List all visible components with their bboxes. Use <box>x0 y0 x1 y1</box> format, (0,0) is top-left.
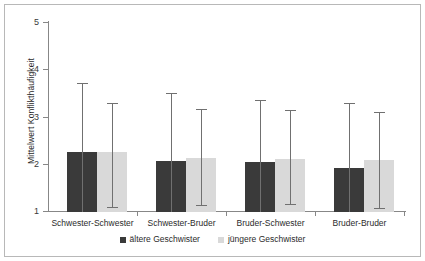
errorcap-younger-3-lower <box>374 208 385 209</box>
x-tick-2 <box>315 212 316 216</box>
errorcap-older-0-upper <box>77 83 88 84</box>
errorbar-younger-1 <box>201 109 202 205</box>
x-tick-1 <box>226 212 227 216</box>
legend-swatch-younger-icon <box>218 237 224 243</box>
errorcap-younger-2-upper <box>285 110 296 111</box>
legend-item-younger[interactable]: jüngere Geschwister <box>218 235 305 244</box>
x-label-3: Bruder-Bruder <box>315 218 404 229</box>
errorcap-younger-2-lower <box>285 204 296 205</box>
legend-item-older[interactable]: ältere Geschwister <box>120 235 200 244</box>
x-tick-3 <box>404 212 405 216</box>
errorbar-younger-3 <box>379 112 380 208</box>
plot-area <box>48 22 405 212</box>
errorcap-older-2-upper <box>255 100 266 101</box>
chart-legend: ältere Geschwister jüngere Geschwister <box>0 235 425 244</box>
legend-label-younger: jüngere Geschwister <box>228 235 305 244</box>
bar-group-0 <box>48 22 137 212</box>
errorbar-older-0 <box>82 83 83 212</box>
errorcap-younger-0-lower <box>107 207 118 208</box>
errorbar-younger-2 <box>290 110 291 204</box>
legend-label-older: ältere Geschwister <box>130 235 200 244</box>
errorcap-younger-1-lower <box>196 205 207 206</box>
y-tick-label-5: 5 <box>19 18 39 27</box>
errorcap-older-3-upper <box>344 103 355 104</box>
y-tick-label-3: 3 <box>19 113 39 122</box>
errorbar-younger-0 <box>112 103 113 208</box>
x-tick-0 <box>137 212 138 216</box>
chart-figure: Mittelwert Konflikthäufigkeit 5 4 3 2 1 <box>0 0 425 261</box>
errorbar-older-1 <box>171 93 172 212</box>
y-tick-label-1: 1 <box>19 207 39 216</box>
y-axis-title: Mittelwert Konflikthäufigkeit <box>24 16 38 206</box>
x-label-1: Schwester-Bruder <box>137 218 226 229</box>
bar-group-1 <box>137 22 226 212</box>
bar-group-2 <box>226 22 315 212</box>
errorcap-younger-3-upper <box>374 112 385 113</box>
errorcap-younger-1-upper <box>196 109 207 110</box>
errorbar-older-3 <box>349 103 350 212</box>
legend-swatch-older-icon <box>120 237 126 243</box>
x-label-0: Schwester-Schwester <box>48 218 137 229</box>
errorcap-older-1-upper <box>166 93 177 94</box>
errorcap-younger-0-upper <box>107 103 118 104</box>
y-tick-label-2: 2 <box>19 160 39 169</box>
y-tick-label-4: 4 <box>19 65 39 74</box>
errorbar-older-2 <box>260 100 261 212</box>
x-label-2: Bruder-Schwester <box>226 218 315 229</box>
bar-group-3 <box>315 22 404 212</box>
